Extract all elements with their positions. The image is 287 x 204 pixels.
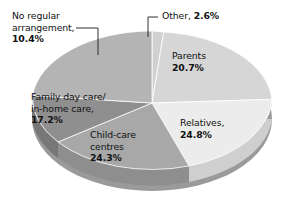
slice-label-other: Other, 2.6%: [162, 10, 219, 22]
pie-slice-parents: [152, 32, 272, 103]
slice-label-parents: Parents 20.7%: [172, 50, 206, 73]
slice-label-no-regular-arrangement: No regular arrangement, 10.4%: [12, 10, 74, 45]
slice-label-line1: Child-care: [90, 129, 136, 140]
slice-label-child-care-centres: Child-care centres 24.3%: [90, 129, 136, 164]
slice-label-relatives: Relatives, 24.8%: [180, 117, 224, 140]
slice-value-no-regular-arrangement: 10.4%: [12, 33, 44, 44]
slice-value-parents: 20.7%: [172, 62, 204, 73]
slice-label-line1: Relatives,: [180, 117, 224, 128]
slice-value-family-day-care: 17.2%: [31, 114, 63, 125]
slice-label-line2: in-home care,: [31, 103, 94, 114]
slice-label-family-day-care: Family day care/ in-home care, 17.2%: [31, 91, 106, 126]
slice-label-line1: Parents: [172, 50, 206, 61]
slice-label-line2: arrangement,: [12, 22, 74, 33]
slice-value-other: 2.6%: [194, 10, 219, 21]
slice-value-child-care-centres: 24.3%: [90, 152, 122, 163]
slice-value-relatives: 24.8%: [180, 129, 212, 140]
slice-label-line1: Family day care/: [31, 91, 106, 102]
slice-label-line1: Other,: [162, 10, 191, 21]
pie-chart: No regular arrangement, 10.4% Other, 2.6…: [0, 0, 287, 204]
slice-label-line1: No regular: [12, 10, 60, 21]
slice-label-line2: centres: [90, 141, 124, 152]
